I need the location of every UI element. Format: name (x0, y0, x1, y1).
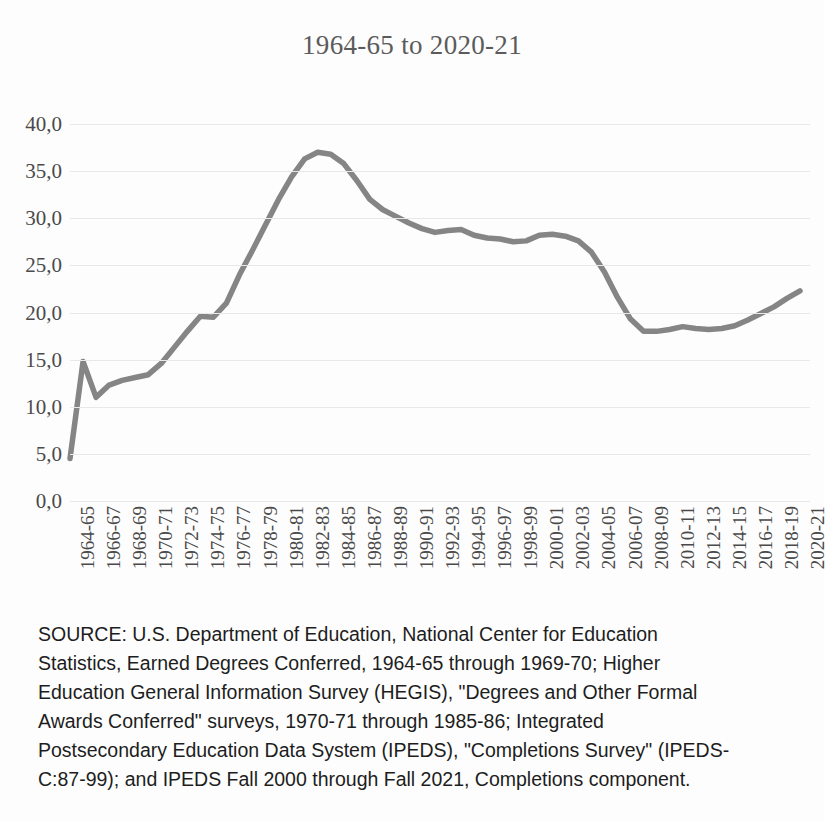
x-axis: 1964-651966-671968-691970-711972-731974-… (70, 506, 810, 606)
x-axis-tick-label: 1988-89 (390, 506, 412, 569)
x-axis-tick-label: 1996-97 (494, 506, 516, 569)
y-axis-tick-label: 10,0 (4, 394, 62, 419)
x-axis-tick-label: 1972-73 (181, 506, 203, 569)
y-axis-tick-label: 40,0 (4, 112, 62, 137)
gridline (70, 171, 810, 172)
x-axis-tick-label: 1974-75 (207, 506, 229, 569)
x-axis-tick-label: 1990-91 (416, 506, 438, 569)
x-axis-tick-label: 1992-93 (442, 506, 464, 569)
source-note-line: Awards Conferred" surveys, 1970-71 throu… (38, 707, 798, 736)
x-axis-tick-label: 2008-09 (651, 506, 673, 569)
x-axis-tick-label: 1980-81 (286, 506, 308, 569)
y-axis-tick-label: 5,0 (4, 441, 62, 466)
x-axis-tick-label: 2014-15 (729, 506, 751, 569)
x-axis-tick-label: 2020-21 (807, 506, 829, 569)
x-axis-tick-label: 1966-67 (103, 506, 125, 569)
x-axis-tick-label: 1986-87 (364, 506, 386, 569)
gridline (70, 265, 810, 266)
source-note-line: SOURCE: U.S. Department of Education, Na… (38, 620, 798, 649)
x-axis-tick-label: 1968-69 (129, 506, 151, 569)
x-axis-tick-label: 2012-13 (703, 506, 725, 569)
y-axis-tick-label: 35,0 (4, 159, 62, 184)
y-axis-tick-label: 15,0 (4, 347, 62, 372)
x-axis-tick-label: 2010-11 (677, 506, 699, 569)
gridline (70, 218, 810, 219)
x-axis-tick-label: 2006-07 (625, 506, 647, 569)
x-axis-tick-label: 1964-65 (77, 506, 99, 569)
x-axis-tick-label: 1984-85 (338, 506, 360, 569)
x-axis-tick-label: 1978-79 (260, 506, 282, 569)
x-axis-tick-label: 2016-17 (755, 506, 777, 569)
x-axis-tick-label: 1982-83 (312, 506, 334, 569)
x-axis-tick-label: 1970-71 (155, 506, 177, 569)
source-note-line: Postsecondary Education Data System (IPE… (38, 736, 798, 765)
x-axis-tick-label: 2002-03 (572, 506, 594, 569)
gridline (70, 454, 810, 455)
y-axis-tick-label: 30,0 (4, 206, 62, 231)
y-axis-tick-label: 25,0 (4, 253, 62, 278)
gridline (70, 501, 810, 502)
gridline (70, 407, 810, 408)
x-axis-tick-label: 1994-95 (468, 506, 490, 569)
gridline (70, 360, 810, 361)
x-axis-tick-label: 2000-01 (546, 506, 568, 569)
x-axis-tick-label: 1976-77 (233, 506, 255, 569)
x-axis-tick-label: 2018-19 (781, 506, 803, 569)
source-note: SOURCE: U.S. Department of Education, Na… (38, 620, 798, 794)
y-axis: 40,035,030,025,020,015,010,05,00,0 (0, 124, 62, 501)
x-axis-tick-label: 1998-99 (520, 506, 542, 569)
source-note-line: C:87-99); and IPEDS Fall 2000 through Fa… (38, 765, 798, 794)
y-axis-tick-label: 0,0 (4, 489, 62, 514)
y-axis-tick-label: 20,0 (4, 300, 62, 325)
chart-title: 1964-65 to 2020-21 (0, 30, 824, 61)
plot-area (70, 124, 810, 501)
gridline (70, 313, 810, 314)
source-note-line: Statistics, Earned Degrees Conferred, 19… (38, 649, 798, 678)
gridline (70, 124, 810, 125)
source-note-line: Education General Information Survey (HE… (38, 678, 798, 707)
x-axis-tick-label: 2004-05 (598, 506, 620, 569)
